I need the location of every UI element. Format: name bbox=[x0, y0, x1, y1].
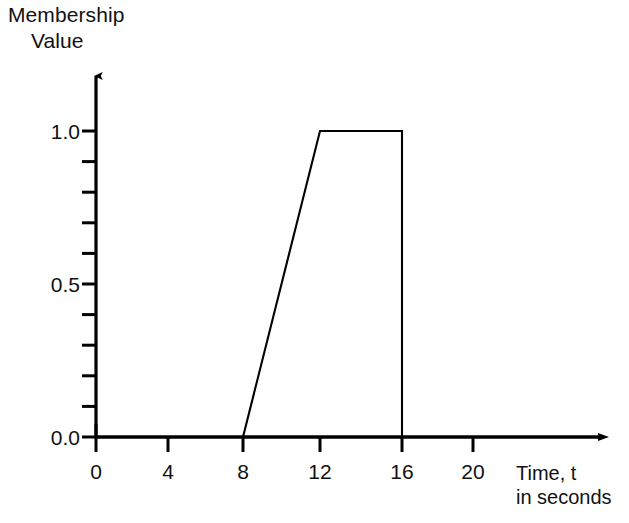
y-axis-ticks bbox=[82, 131, 96, 437]
chart-figure: Membership Value Time, t in seconds 1.0 … bbox=[0, 0, 629, 523]
membership-function-curve bbox=[243, 131, 402, 437]
x-axis-ticks bbox=[96, 437, 473, 452]
plot-area bbox=[0, 0, 629, 523]
